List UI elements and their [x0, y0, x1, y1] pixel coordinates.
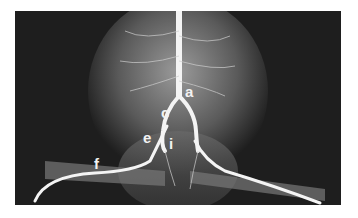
label-a: a — [185, 84, 193, 99]
angiogram-image: a c e i f — [15, 11, 341, 205]
label-e: e — [143, 130, 151, 145]
label-c: c — [161, 105, 169, 120]
angiogram-drawing — [15, 11, 341, 205]
label-i: i — [169, 136, 173, 151]
label-f: f — [94, 156, 99, 171]
